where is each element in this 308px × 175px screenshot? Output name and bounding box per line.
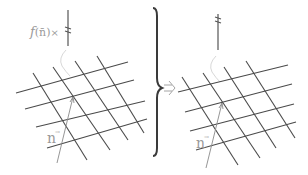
grid-line	[224, 67, 276, 148]
right-panel: n →	[178, 14, 296, 168]
curly-brace	[153, 8, 162, 156]
brace-group	[153, 8, 175, 156]
diagram-svg: f(n̄)× n →	[0, 0, 308, 175]
grid-line	[97, 56, 144, 133]
left-curl-connector	[61, 50, 70, 76]
grid-line	[75, 61, 128, 140]
grid-line	[196, 122, 296, 150]
right-normal-label-accent: →	[204, 133, 209, 140]
right-curl-connector	[211, 56, 220, 82]
grid-line	[178, 65, 288, 92]
left-panel: f(n̄)× n →	[16, 10, 147, 163]
left-normal-label-accent: →	[55, 128, 60, 135]
force-times: ×	[50, 27, 58, 38]
force-arg: (n̄)	[35, 26, 51, 39]
diagram-canvas: f(n̄)× n →	[0, 0, 308, 175]
force-label: f(n̄)×	[29, 24, 59, 39]
implies-arrow	[164, 81, 175, 95]
grid-line	[16, 62, 128, 93]
grid-line	[246, 61, 295, 138]
